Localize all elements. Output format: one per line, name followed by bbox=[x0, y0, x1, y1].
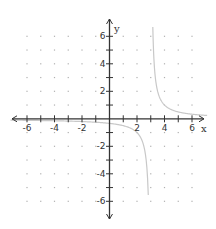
grid-dot bbox=[150, 77, 151, 78]
grid-dot bbox=[123, 201, 124, 202]
grid-dot bbox=[54, 77, 55, 78]
function-curve bbox=[11, 27, 208, 195]
x-tick-label: 2 bbox=[134, 123, 140, 133]
grid-dot bbox=[136, 91, 137, 92]
grid-dot bbox=[136, 173, 137, 174]
grid-dot bbox=[40, 159, 41, 160]
grid-dot bbox=[26, 49, 27, 50]
grid-dot bbox=[123, 63, 124, 64]
grid-dot bbox=[178, 77, 179, 78]
grid-dot bbox=[95, 36, 96, 37]
grid-dot bbox=[54, 159, 55, 160]
grid-dot bbox=[54, 36, 55, 37]
grid-dot bbox=[81, 201, 82, 202]
grid-dot bbox=[136, 63, 137, 64]
grid-dot bbox=[81, 49, 82, 50]
x-tick-label: -4 bbox=[50, 123, 59, 133]
graph: -6-4-2246642-2-4-6 x y bbox=[0, 0, 216, 229]
grid-dot bbox=[123, 77, 124, 78]
grid-dot bbox=[136, 36, 137, 37]
grid-dot bbox=[123, 132, 124, 133]
grid-dot bbox=[178, 132, 179, 133]
grid-dot bbox=[26, 36, 27, 37]
grid-dot bbox=[136, 146, 137, 147]
grid-dot bbox=[54, 49, 55, 50]
grid-dot bbox=[164, 77, 165, 78]
grid-dot bbox=[136, 104, 137, 105]
grid-dot bbox=[95, 187, 96, 188]
grid-dot bbox=[40, 63, 41, 64]
grid-dot bbox=[81, 36, 82, 37]
grid-dot bbox=[191, 201, 192, 202]
y-tick-label: -6 bbox=[97, 196, 106, 206]
grid-dot bbox=[81, 104, 82, 105]
grid-dot bbox=[136, 77, 137, 78]
grid-dot bbox=[164, 173, 165, 174]
curve-branch bbox=[153, 27, 207, 115]
grid-dot bbox=[191, 173, 192, 174]
y-tick-label: -2 bbox=[97, 141, 106, 151]
y-tick-label: 4 bbox=[100, 59, 106, 69]
grid-dot bbox=[164, 91, 165, 92]
grid-dot bbox=[26, 159, 27, 160]
grid-dot bbox=[95, 49, 96, 50]
grid-dot bbox=[26, 91, 27, 92]
grid-dot bbox=[123, 187, 124, 188]
grid-dot bbox=[81, 63, 82, 64]
grid-dot bbox=[191, 91, 192, 92]
grid-dot bbox=[95, 132, 96, 133]
grid-dot bbox=[40, 36, 41, 37]
grid-dot bbox=[136, 187, 137, 188]
grid-dot bbox=[123, 49, 124, 50]
grid-dot bbox=[123, 146, 124, 147]
grid-dot bbox=[81, 173, 82, 174]
axes bbox=[12, 19, 204, 219]
grid-dot bbox=[164, 146, 165, 147]
grid-dot bbox=[81, 187, 82, 188]
grid-dot bbox=[40, 104, 41, 105]
x-axis-label: x bbox=[201, 123, 207, 134]
grid-dot bbox=[178, 36, 179, 37]
x-tick-label: -2 bbox=[78, 123, 87, 133]
x-tick-label: 6 bbox=[189, 123, 195, 133]
grid-dot bbox=[150, 104, 151, 105]
grid-dot bbox=[68, 201, 69, 202]
grid-dot bbox=[136, 201, 137, 202]
grid-dot bbox=[150, 63, 151, 64]
grid-dot bbox=[191, 146, 192, 147]
grid-dot bbox=[68, 187, 69, 188]
grid-dot bbox=[150, 132, 151, 133]
grid-dot bbox=[178, 49, 179, 50]
y-tick-label: -4 bbox=[97, 169, 106, 179]
grid-dot bbox=[150, 36, 151, 37]
grid-dot bbox=[191, 187, 192, 188]
grid-dot bbox=[95, 159, 96, 160]
grid-dot bbox=[26, 201, 27, 202]
grid-dot bbox=[191, 159, 192, 160]
grid-dot bbox=[178, 104, 179, 105]
grid-dot bbox=[150, 146, 151, 147]
grid-dot bbox=[54, 91, 55, 92]
grid-dot bbox=[54, 63, 55, 64]
grid-dot bbox=[26, 63, 27, 64]
grid-dot bbox=[164, 36, 165, 37]
y-axis-label: y bbox=[113, 23, 120, 34]
grid-dot bbox=[40, 132, 41, 133]
grid-dot bbox=[191, 63, 192, 64]
grid-dot bbox=[40, 77, 41, 78]
grid-dot bbox=[68, 91, 69, 92]
grid-dot bbox=[54, 104, 55, 105]
grid-dot bbox=[123, 173, 124, 174]
grid-dot bbox=[40, 173, 41, 174]
grid-dot bbox=[164, 201, 165, 202]
grid-dot bbox=[68, 159, 69, 160]
grid-dot bbox=[123, 36, 124, 37]
grid-dot bbox=[68, 77, 69, 78]
grid-dot bbox=[54, 201, 55, 202]
grid-dot bbox=[178, 91, 179, 92]
grid-dot bbox=[191, 49, 192, 50]
grid-dot bbox=[191, 36, 192, 37]
grid-dot bbox=[178, 187, 179, 188]
grid-dot bbox=[95, 63, 96, 64]
grid-dot bbox=[178, 173, 179, 174]
